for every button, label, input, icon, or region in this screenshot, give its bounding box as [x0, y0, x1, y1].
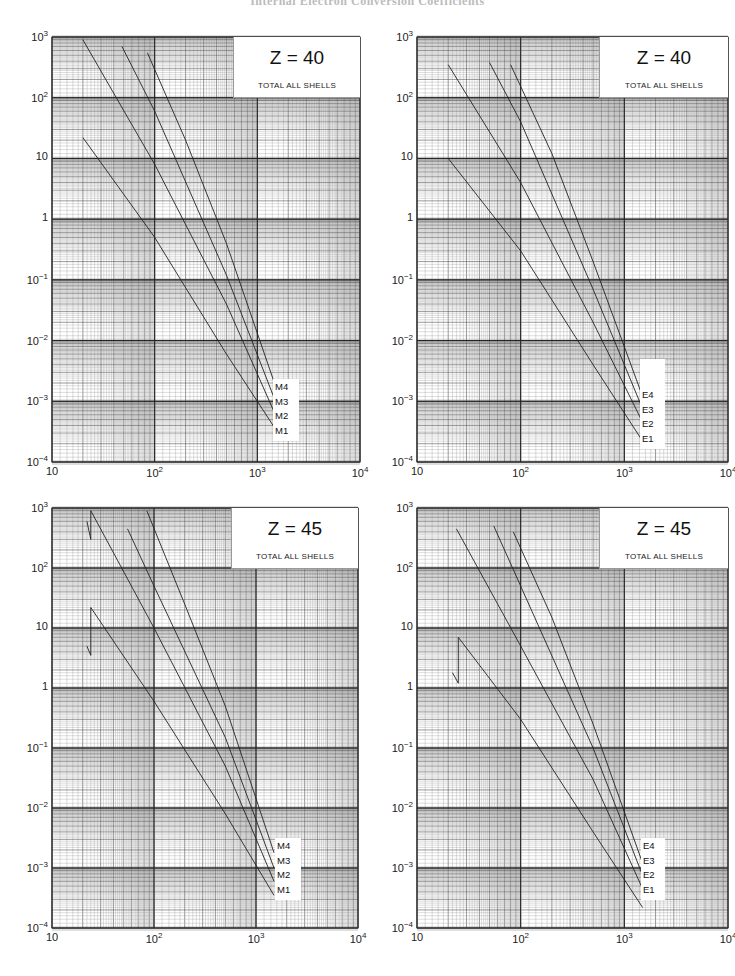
y-tick-label: 103: [369, 500, 413, 514]
x-tick-label: 104: [708, 465, 735, 479]
z-value-label: Z = 45: [232, 518, 358, 540]
x-tick-label: 103: [236, 931, 276, 945]
z-info-box: Z = 45TOTAL ALL SHELLS: [599, 508, 728, 569]
curve-label-e1: E1: [643, 884, 655, 895]
y-tick-label: 10: [4, 620, 48, 632]
log-grid: [52, 37, 360, 462]
x-tick-label: 104: [708, 931, 735, 945]
x-tick-label: 10: [397, 465, 437, 477]
curve-legend: E4E3E2E1: [640, 359, 665, 449]
y-tick-label: 10−1: [4, 272, 48, 286]
chart-panel-bl: Z = 45TOTAL ALL SHELLSM4M3M2M11031021011…: [52, 508, 358, 928]
log-grid: [52, 508, 358, 928]
curve-label-e4: E4: [642, 389, 654, 400]
y-tick-label: 10−2: [4, 800, 48, 814]
x-tick-label: 102: [135, 465, 175, 479]
curve-label-m3: M3: [275, 396, 288, 407]
z-info-box: Z = 45TOTAL ALL SHELLS: [231, 508, 358, 569]
z-info-box: Z = 40TOTAL ALL SHELLS: [599, 37, 728, 98]
y-tick-label: 10−3: [369, 860, 413, 874]
curve-label-m1: M1: [275, 425, 288, 436]
curve-label-m4: M4: [275, 381, 288, 392]
chart-panel-br: Z = 45TOTAL ALL SHELLSE4E3E2E11031021011…: [417, 508, 728, 928]
x-tick-label: 102: [134, 931, 174, 945]
total-shells-label: TOTAL ALL SHELLS: [232, 552, 358, 561]
y-tick-label: 10−3: [369, 393, 413, 407]
curve-label-m2: M2: [275, 410, 288, 421]
curve-label-e2: E2: [643, 869, 655, 880]
y-tick-label: 102: [4, 560, 48, 574]
y-tick-label: 10−1: [369, 272, 413, 286]
y-tick-label: 10−3: [4, 393, 48, 407]
y-tick-label: 10−2: [4, 333, 48, 347]
total-shells-label: TOTAL ALL SHELLS: [234, 81, 360, 90]
x-tick-label: 10: [397, 931, 437, 943]
y-tick-label: 10−2: [369, 800, 413, 814]
y-tick-label: 10: [369, 150, 413, 162]
y-tick-label: 1: [369, 680, 413, 692]
curve-legend: M4M3M2M1: [273, 379, 299, 441]
y-tick-label: 10−3: [4, 860, 48, 874]
page-header: Internal Electron Conversion Coefficient…: [0, 0, 735, 9]
y-tick-label: 10−1: [4, 740, 48, 754]
curve-e2: [456, 529, 642, 889]
y-tick-label: 103: [4, 29, 48, 43]
y-tick-label: 103: [369, 29, 413, 43]
curve-label-e1: E1: [642, 433, 654, 444]
curve-label-m4: M4: [277, 840, 290, 851]
curve-label-e3: E3: [642, 404, 654, 415]
curve-label-e2: E2: [642, 418, 654, 429]
y-tick-label: 102: [369, 90, 413, 104]
y-tick-label: 10−1: [369, 740, 413, 754]
y-tick-label: 10: [4, 150, 48, 162]
x-tick-label: 103: [604, 931, 644, 945]
x-tick-label: 10: [32, 465, 72, 477]
curve-label-e3: E3: [643, 855, 655, 866]
y-tick-label: 1: [4, 680, 48, 692]
y-tick-label: 1: [4, 211, 48, 223]
curve-label-m3: M3: [277, 855, 290, 866]
y-tick-label: 10: [369, 620, 413, 632]
log-grid: [417, 37, 728, 462]
y-tick-label: 10−2: [369, 333, 413, 347]
x-tick-label: 102: [501, 465, 541, 479]
z-value-label: Z = 40: [600, 47, 728, 69]
total-shells-label: TOTAL ALL SHELLS: [600, 552, 728, 561]
chart-panel-tr: Z = 40TOTAL ALL SHELLSE4E3E2E11031021011…: [417, 37, 728, 462]
chart-panel-tl: Z = 40TOTAL ALL SHELLSM4M3M2M11031021011…: [52, 37, 360, 462]
log-grid: [417, 508, 728, 928]
curve-label-e4: E4: [643, 840, 655, 851]
total-shells-label: TOTAL ALL SHELLS: [600, 81, 728, 90]
z-value-label: Z = 40: [234, 47, 360, 69]
y-tick-label: 102: [369, 560, 413, 574]
z-info-box: Z = 40TOTAL ALL SHELLS: [233, 37, 360, 98]
y-tick-label: 103: [4, 500, 48, 514]
curve-label-m2: M2: [277, 869, 290, 880]
y-tick-label: 1: [369, 211, 413, 223]
z-value-label: Z = 45: [600, 518, 728, 540]
x-tick-label: 10: [32, 931, 72, 943]
x-tick-label: 103: [237, 465, 277, 479]
y-tick-label: 102: [4, 90, 48, 104]
curve-label-m1: M1: [277, 884, 290, 895]
curve-legend: M4M3M2M1: [275, 838, 301, 900]
x-tick-label: 102: [501, 931, 541, 945]
curve-legend: E4E3E2E1: [641, 838, 665, 900]
x-tick-label: 103: [604, 465, 644, 479]
